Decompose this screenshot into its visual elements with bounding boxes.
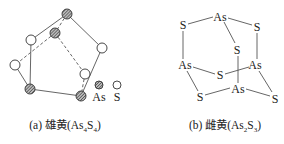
bond bbox=[187, 71, 198, 91]
sulfur-atom bbox=[26, 35, 36, 45]
bond bbox=[246, 89, 270, 96]
bond bbox=[228, 18, 252, 25]
caption-realgar: (a) 雄黄(As4S4) bbox=[29, 118, 101, 134]
legend-arsenic-label: As bbox=[92, 90, 106, 104]
atom-label-as: As bbox=[213, 10, 227, 24]
bond bbox=[67, 14, 102, 48]
bond bbox=[259, 71, 272, 92]
atom-label-s: S bbox=[217, 68, 224, 82]
atom-label-s: S bbox=[197, 90, 204, 104]
atom-label-as: As bbox=[248, 58, 262, 72]
atom-label-s: S bbox=[272, 92, 279, 106]
bond bbox=[31, 14, 67, 40]
sulfur-atom bbox=[10, 60, 20, 70]
atom-label-s: S bbox=[254, 20, 261, 34]
arsenic-atom bbox=[50, 28, 60, 38]
arsenic-atom bbox=[62, 9, 72, 19]
legend-sulfur-label: S bbox=[114, 90, 121, 104]
atom-label-s: S bbox=[180, 18, 187, 32]
bond bbox=[193, 67, 215, 74]
bond bbox=[30, 89, 81, 96]
legend-sulfur-icon bbox=[113, 81, 121, 89]
sulfur-atom bbox=[80, 69, 90, 79]
atom-label-s: S bbox=[234, 43, 241, 57]
legend-arsenic-icon bbox=[95, 81, 103, 89]
bond bbox=[30, 40, 31, 89]
atom-label-as: As bbox=[231, 82, 245, 96]
arsenic-atom bbox=[25, 84, 35, 94]
caption-orpiment: (b) 雌黄(As2S3) bbox=[189, 118, 261, 134]
back-bond bbox=[55, 33, 85, 74]
orpiment-structure: As S S S As As S As S S bbox=[178, 10, 278, 106]
bond bbox=[188, 17, 213, 24]
realgar-structure bbox=[10, 9, 107, 101]
sulfur-atom bbox=[97, 43, 107, 53]
arsenic-atom bbox=[76, 91, 86, 101]
legend: As S bbox=[92, 81, 121, 104]
atom-label-as: As bbox=[178, 58, 192, 72]
bond bbox=[224, 22, 235, 43]
bond bbox=[205, 88, 230, 95]
bond bbox=[225, 67, 249, 74]
arsenic-sulfide-structures-figure: As S (a) 雄黄(As4S4) As S S S As As S As S… bbox=[0, 0, 284, 144]
